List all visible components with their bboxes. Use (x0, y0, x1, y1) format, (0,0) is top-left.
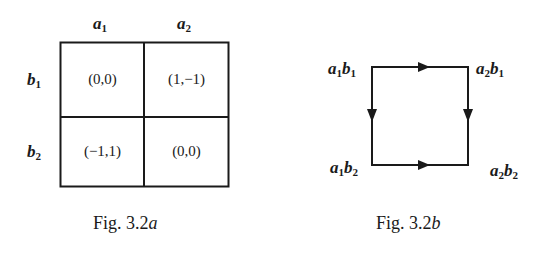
arrow-right-icon (418, 62, 430, 72)
node-a1b2: a1b2 (330, 158, 358, 178)
arrow-down-icon (367, 109, 377, 122)
node-a2b2: a2b2 (490, 161, 518, 181)
node-a2b1: a2b1 (476, 59, 504, 79)
arrow-right-icon (418, 160, 430, 170)
arrow-down-icon (463, 109, 473, 122)
directed-square-diagram (0, 0, 556, 257)
node-a1b1: a1b1 (328, 59, 356, 79)
caption-fig-3-2b: Fig. 3.2b (376, 213, 441, 234)
